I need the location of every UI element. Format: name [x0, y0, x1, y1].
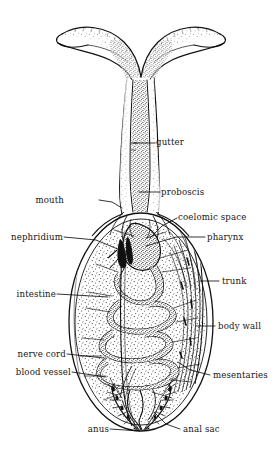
label-anus: anus — [88, 424, 109, 434]
label-coelomic-space: coelomic space — [178, 212, 246, 222]
proboscis-group — [57, 27, 226, 214]
label-trunk: trunk — [222, 276, 247, 286]
label-nerve-cord: nerve cord — [18, 349, 67, 359]
anatomy-figure: gutter proboscis mouth coelomic space ne… — [0, 0, 278, 456]
label-anal-sac: anal sac — [183, 424, 220, 434]
label-body-wall: body wall — [218, 321, 261, 331]
label-blood-vessel: blood vessel — [16, 367, 71, 377]
label-nephridium: nephridium — [11, 232, 63, 242]
label-gutter: gutter — [156, 137, 184, 147]
proboscis-stalk — [120, 78, 161, 214]
trunk-body — [69, 212, 213, 432]
label-pharynx: pharynx — [207, 232, 244, 242]
label-mesentaries: mesentaries — [213, 370, 268, 380]
leader-mouth — [99, 200, 122, 208]
label-proboscis: proboscis — [161, 187, 204, 197]
anatomy-drawing — [0, 0, 278, 456]
label-mouth: mouth — [35, 195, 64, 205]
label-intestine: intestine — [17, 289, 56, 299]
